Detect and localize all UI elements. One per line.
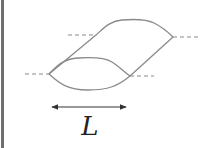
upper-arc xyxy=(96,19,173,37)
length-label: L xyxy=(80,111,98,141)
lens-diagram: L xyxy=(0,0,214,148)
lens-top-arc xyxy=(49,58,130,76)
diagonal-left xyxy=(49,35,96,74)
lens-bottom-arc xyxy=(49,74,130,90)
diagonal-right xyxy=(130,37,173,76)
